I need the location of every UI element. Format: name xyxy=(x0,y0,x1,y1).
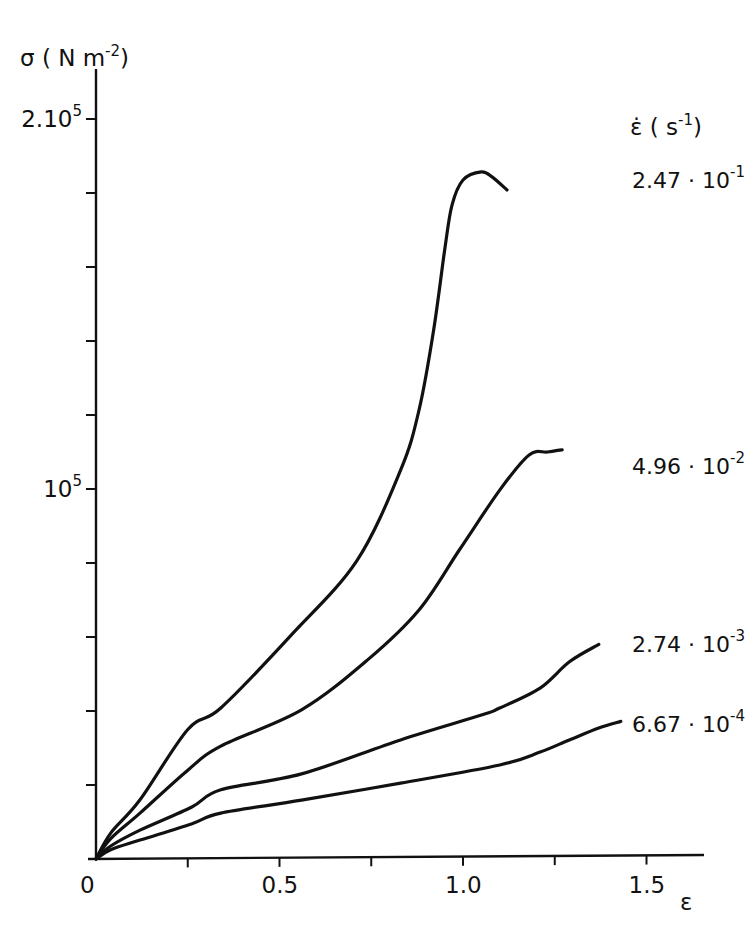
y-tick-label-exponent: 5 xyxy=(72,102,82,120)
legend-title-unit: ( s xyxy=(642,114,678,140)
y-tick-labels: 1052.105 xyxy=(21,102,82,502)
y-tick-label-base: 2.10 xyxy=(21,106,72,132)
series-label-3: 2.74 · 10-3 xyxy=(632,627,745,657)
y-tick-label: 105 xyxy=(43,472,82,502)
series-labels: 2.47 · 10-14.96 · 10-22.74 · 10-36.67 · … xyxy=(632,163,745,737)
stress-strain-chart: σ ( N m-2) ε̇ ( s-1) 00.51.01.5 1052.105… xyxy=(0,0,756,931)
y-tick-label-exponent: 5 xyxy=(72,472,82,490)
series-label-exponent: -1 xyxy=(730,163,745,181)
series-label-1: 2.47 · 10-1 xyxy=(632,163,745,193)
series-label-exponent: -4 xyxy=(730,707,745,725)
x-tick-label: 1.0 xyxy=(445,872,482,898)
series-label-base: 2.47 · 10 xyxy=(632,168,730,193)
legend-title-unit-sup: -1 xyxy=(678,111,693,129)
y-tick-label: 2.105 xyxy=(21,102,82,132)
x-tick-labels: 00.51.01.5 xyxy=(80,872,665,898)
y-axis-label: σ ( N m-2) xyxy=(20,42,129,71)
series-line-4 xyxy=(96,721,621,859)
series-label-base: 4.96 · 10 xyxy=(632,454,730,479)
curves xyxy=(96,172,621,859)
y-axis-label-base: σ ( N m xyxy=(20,45,105,71)
y-tick-label-base: 10 xyxy=(43,476,72,502)
legend-title-close: ) xyxy=(693,114,702,140)
x-axis xyxy=(88,855,704,859)
x-axis-label: ε xyxy=(680,889,692,915)
series-line-2 xyxy=(96,450,562,859)
x-tick-label: 0 xyxy=(80,872,95,898)
legend-title: ε̇ ( s-1) xyxy=(630,111,702,140)
series-label-base: 6.67 · 10 xyxy=(632,712,730,737)
series-line-1 xyxy=(96,172,507,859)
x-tick-label: 1.5 xyxy=(629,872,666,898)
series-label-exponent: -2 xyxy=(730,449,745,467)
x-tick-label: 0.5 xyxy=(262,872,299,898)
y-axis-label-close: ) xyxy=(120,45,129,71)
series-label-4: 6.67 · 10-4 xyxy=(632,707,745,737)
legend-title-symbol: ε̇ xyxy=(630,114,642,140)
series-label-base: 2.74 · 10 xyxy=(632,632,730,657)
series-label-exponent: -3 xyxy=(730,627,745,645)
y-axis-label-sup: -2 xyxy=(105,42,120,60)
y-ticks xyxy=(86,119,96,785)
series-label-2: 4.96 · 10-2 xyxy=(632,449,745,479)
